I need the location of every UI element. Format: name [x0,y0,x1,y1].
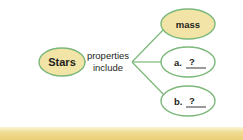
link-label-line1: properties [87,50,129,61]
root-node-label: Stars [48,56,76,68]
connector-branch-mass [132,28,165,62]
decorative-bottom-band [0,127,243,140]
branch-node-mass: mass [161,9,215,39]
branch-node-b-answer[interactable]: ? [189,95,195,106]
link-label: properties include [87,50,129,73]
link-label-line2: include [93,62,123,73]
connector-branch-b [132,62,165,96]
branch-node-b[interactable]: b. ? [161,86,215,116]
branch-node-mass-label: mass [176,19,200,30]
branch-node-a-shape [161,47,215,77]
branch-node-b-shape [161,86,215,116]
root-node-stars: Stars [39,48,85,76]
branch-node-b-prefix: b. [174,96,182,107]
branch-node-a-answer[interactable]: ? [189,56,195,67]
concept-map-canvas: Stars properties include mass a. ? b. ? [0,0,243,140]
concept-map-diagram: Stars properties include mass a. ? b. ? [0,0,243,128]
branch-node-a[interactable]: a. ? [161,47,215,77]
branch-node-a-prefix: a. [174,57,182,68]
